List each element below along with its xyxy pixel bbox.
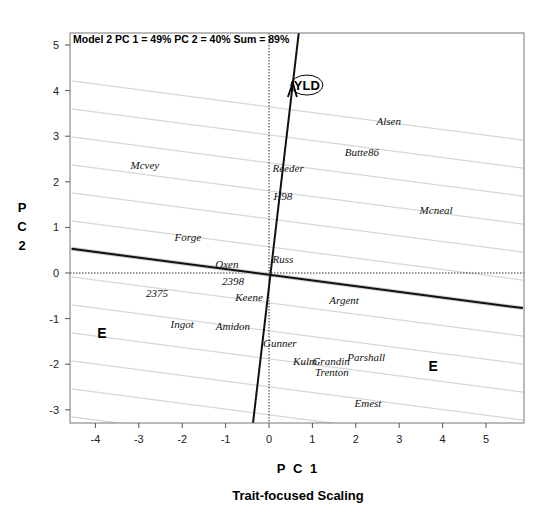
y-tick-label: 5 bbox=[53, 39, 59, 51]
y-tick-label: -3 bbox=[49, 404, 59, 416]
x-tick-label: 3 bbox=[396, 433, 402, 445]
genotype-label: Reeder bbox=[272, 162, 305, 174]
ate-abscissa bbox=[72, 249, 523, 308]
genotype-label: Forge bbox=[174, 231, 202, 243]
y-tick-label: -2 bbox=[49, 358, 59, 370]
genotype-label: Argent bbox=[328, 294, 359, 306]
guide-line bbox=[72, 277, 523, 336]
x-tick-label: 1 bbox=[309, 433, 315, 445]
y-tick-label: 4 bbox=[53, 85, 59, 97]
guide-line bbox=[72, 193, 523, 252]
y-tick-label: -1 bbox=[49, 313, 59, 325]
environment-marker: E bbox=[97, 325, 106, 341]
genotype-label: Gunner bbox=[263, 337, 297, 349]
x-axis-title: P C 1 bbox=[277, 461, 319, 476]
environment-marker: E bbox=[428, 358, 437, 374]
genotype-label: Mcvey bbox=[130, 159, 160, 171]
x-tick-label: -1 bbox=[221, 433, 231, 445]
genotype-label: Ingot bbox=[170, 318, 195, 330]
svg-text:C: C bbox=[17, 219, 27, 234]
y-tick-label: 0 bbox=[53, 267, 59, 279]
ate-ordinate bbox=[253, 31, 299, 423]
genotype-label: H98 bbox=[272, 190, 292, 202]
guide-line bbox=[72, 361, 523, 420]
x-axis: -4-3-2-1012345 bbox=[91, 423, 490, 445]
x-tick-label: 5 bbox=[483, 433, 489, 445]
y-tick-label: 1 bbox=[53, 221, 59, 233]
x-tick-label: 0 bbox=[266, 433, 272, 445]
genotype-label: Keene bbox=[234, 291, 263, 303]
genotype-label: Alsen bbox=[376, 115, 402, 127]
chart-title: Model 2 PC 1 = 49% PC 2 = 40% Sum = 89% bbox=[73, 33, 290, 45]
y-axis-title: PC2 bbox=[17, 200, 27, 253]
genotype-label: 2375 bbox=[146, 287, 169, 299]
svg-text:P: P bbox=[18, 200, 27, 215]
environment-markers: EE bbox=[97, 325, 437, 374]
genotype-label: 2398 bbox=[222, 275, 245, 287]
x-tick-label: 2 bbox=[353, 433, 359, 445]
x-tick-label: 4 bbox=[440, 433, 446, 445]
x-tick-label: -3 bbox=[134, 433, 144, 445]
y-axis: -3-2-1012345 bbox=[49, 39, 70, 416]
gge-biplot: -4-3-2-1012345 -3-2-1012345 Model 2 PC 1… bbox=[0, 0, 545, 512]
svg-text:2: 2 bbox=[18, 238, 25, 253]
genotype-label: Oxen bbox=[215, 258, 239, 270]
genotype-label: Trenton bbox=[315, 366, 349, 378]
genotype-label: Emest bbox=[354, 397, 383, 409]
trait-label: YLD bbox=[294, 78, 320, 93]
genotype-label: Butte86 bbox=[345, 146, 380, 158]
genotype-label: Russ bbox=[271, 253, 293, 265]
y-tick-label: 2 bbox=[53, 176, 59, 188]
trait-vector: YLD bbox=[288, 75, 323, 97]
chart-subtitle: Trait-focused Scaling bbox=[232, 488, 364, 503]
x-tick-label: -2 bbox=[177, 433, 187, 445]
guide-line bbox=[72, 221, 523, 280]
y-tick-label: 3 bbox=[53, 130, 59, 142]
genotype-label: Mcneal bbox=[419, 204, 453, 216]
x-tick-label: -4 bbox=[91, 433, 101, 445]
genotype-label: Amidon bbox=[215, 320, 251, 332]
genotype-label: Parshall bbox=[346, 351, 385, 363]
